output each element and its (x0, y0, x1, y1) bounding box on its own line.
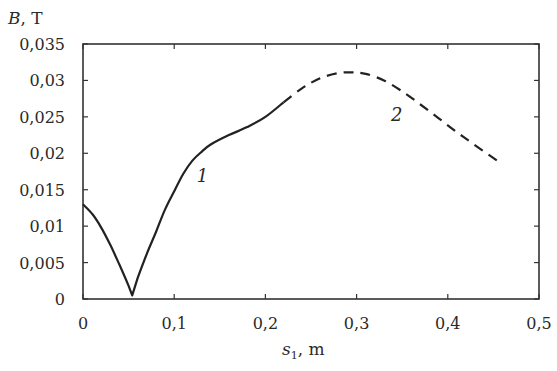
y-axis-unit: , T (21, 8, 44, 28)
plot-border (83, 44, 539, 299)
curve-label-2: 2 (390, 104, 402, 125)
y-tick-label: 0,02 (29, 144, 65, 163)
series-1-line (83, 102, 284, 295)
x-tick-label: 0,3 (344, 314, 369, 333)
curve-labels: 12 (197, 104, 403, 187)
curve-label-1: 1 (197, 165, 208, 186)
x-axis-subscript: 1 (291, 349, 298, 362)
y-tick-label: 0,035 (19, 35, 65, 54)
plot-frame (83, 44, 539, 299)
y-axis-symbol: B (7, 8, 21, 28)
x-axis-ticks: 00,10,20,30,40,5 (78, 44, 552, 333)
series-group (83, 72, 497, 295)
y-tick-label: 0 (55, 290, 65, 309)
x-axis-unit: , m (298, 339, 325, 359)
x-tick-label: 0,4 (435, 314, 460, 333)
y-tick-label: 0,03 (29, 71, 65, 90)
y-tick-label: 0,01 (29, 217, 65, 236)
x-tick-label: 0,1 (161, 314, 186, 333)
chart: 00,0050,010,0150,020,0250,030,035 00,10,… (0, 0, 557, 371)
x-tick-label: 0,2 (253, 314, 278, 333)
y-tick-label: 0,025 (19, 108, 65, 127)
y-tick-label: 0,015 (19, 181, 65, 200)
y-axis-ticks: 00,0050,010,0150,020,0250,030,035 (19, 35, 539, 309)
x-tick-label: 0,5 (526, 314, 551, 333)
x-tick-label: 0 (78, 314, 88, 333)
x-axis-title: s1, m (282, 339, 325, 362)
y-axis-title: B, T (7, 8, 43, 28)
x-axis-symbol: s (282, 339, 291, 359)
y-tick-label: 0,005 (19, 254, 65, 273)
